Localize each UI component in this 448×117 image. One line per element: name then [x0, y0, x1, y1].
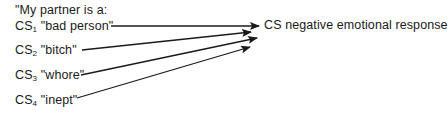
arrow-cs2 [82, 32, 251, 50]
arrow-cs4 [77, 47, 250, 98]
arrow-cs3 [81, 38, 257, 75]
